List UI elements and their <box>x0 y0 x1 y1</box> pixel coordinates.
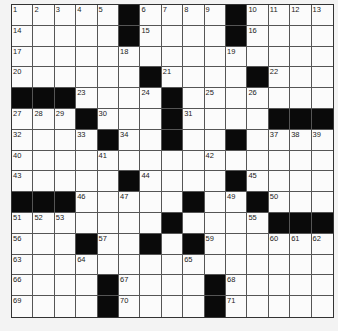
crossword-cell[interactable] <box>290 255 311 276</box>
crossword-cell[interactable] <box>290 275 311 296</box>
crossword-cell[interactable] <box>140 151 161 172</box>
crossword-cell[interactable]: 49 <box>226 192 247 213</box>
crossword-cell[interactable]: 40 <box>12 151 33 172</box>
crossword-cell[interactable]: 66 <box>12 275 33 296</box>
crossword-cell[interactable] <box>269 47 290 68</box>
crossword-cell[interactable] <box>312 296 333 317</box>
crossword-cell[interactable] <box>183 67 204 88</box>
crossword-cell[interactable]: 14 <box>12 26 33 47</box>
crossword-cell[interactable]: 6 <box>140 5 161 26</box>
crossword-cell[interactable]: 61 <box>290 234 311 255</box>
crossword-cell[interactable] <box>140 47 161 68</box>
crossword-cell[interactable] <box>162 26 183 47</box>
crossword-cell[interactable] <box>205 26 226 47</box>
crossword-cell[interactable] <box>76 47 97 68</box>
crossword-cell[interactable] <box>98 192 119 213</box>
crossword-cell[interactable] <box>183 130 204 151</box>
crossword-cell[interactable] <box>76 171 97 192</box>
crossword-cell[interactable] <box>162 234 183 255</box>
crossword-cell[interactable]: 22 <box>269 67 290 88</box>
crossword-cell[interactable] <box>290 171 311 192</box>
crossword-cell[interactable]: 23 <box>76 88 97 109</box>
crossword-cell[interactable] <box>55 130 76 151</box>
crossword-cell[interactable]: 71 <box>226 296 247 317</box>
crossword-cell[interactable] <box>76 151 97 172</box>
crossword-cell[interactable] <box>312 47 333 68</box>
crossword-cell[interactable] <box>140 213 161 234</box>
crossword-cell[interactable]: 44 <box>140 171 161 192</box>
crossword-cell[interactable] <box>269 151 290 172</box>
crossword-cell[interactable] <box>98 88 119 109</box>
crossword-cell[interactable]: 46 <box>76 192 97 213</box>
crossword-cell[interactable] <box>119 234 140 255</box>
crossword-cell[interactable] <box>226 109 247 130</box>
crossword-cell[interactable] <box>269 296 290 317</box>
crossword-cell[interactable] <box>119 67 140 88</box>
crossword-cell[interactable] <box>290 88 311 109</box>
crossword-cell[interactable] <box>183 213 204 234</box>
crossword-cell[interactable]: 57 <box>98 234 119 255</box>
crossword-cell[interactable]: 5 <box>98 5 119 26</box>
crossword-cell[interactable] <box>55 151 76 172</box>
crossword-cell[interactable] <box>55 255 76 276</box>
crossword-cell[interactable] <box>33 275 54 296</box>
crossword-cell[interactable] <box>205 67 226 88</box>
crossword-cell[interactable] <box>76 67 97 88</box>
crossword-cell[interactable]: 7 <box>162 5 183 26</box>
crossword-cell[interactable] <box>55 26 76 47</box>
crossword-cell[interactable]: 25 <box>205 88 226 109</box>
crossword-cell[interactable] <box>226 234 247 255</box>
crossword-cell[interactable] <box>98 67 119 88</box>
crossword-cell[interactable]: 67 <box>119 275 140 296</box>
crossword-cell[interactable] <box>76 296 97 317</box>
crossword-cell[interactable] <box>98 26 119 47</box>
crossword-cell[interactable] <box>226 255 247 276</box>
crossword-cell[interactable]: 17 <box>12 47 33 68</box>
crossword-cell[interactable] <box>269 26 290 47</box>
crossword-cell[interactable]: 1 <box>12 5 33 26</box>
crossword-cell[interactable]: 47 <box>119 192 140 213</box>
crossword-cell[interactable]: 11 <box>269 5 290 26</box>
crossword-cell[interactable] <box>76 275 97 296</box>
crossword-cell[interactable]: 42 <box>205 151 226 172</box>
crossword-cell[interactable] <box>140 275 161 296</box>
crossword-cell[interactable]: 60 <box>269 234 290 255</box>
crossword-cell[interactable]: 38 <box>290 130 311 151</box>
crossword-cell[interactable] <box>162 192 183 213</box>
crossword-cell[interactable]: 59 <box>205 234 226 255</box>
crossword-cell[interactable] <box>312 275 333 296</box>
crossword-cell[interactable] <box>269 88 290 109</box>
crossword-cell[interactable] <box>205 255 226 276</box>
crossword-cell[interactable] <box>55 234 76 255</box>
crossword-cell[interactable]: 70 <box>119 296 140 317</box>
crossword-cell[interactable]: 18 <box>119 47 140 68</box>
crossword-cell[interactable] <box>183 26 204 47</box>
crossword-cell[interactable] <box>33 130 54 151</box>
crossword-cell[interactable]: 65 <box>183 255 204 276</box>
crossword-cell[interactable]: 43 <box>12 171 33 192</box>
crossword-cell[interactable]: 16 <box>247 26 268 47</box>
crossword-cell[interactable]: 10 <box>247 5 268 26</box>
crossword-cell[interactable] <box>119 213 140 234</box>
crossword-cell[interactable] <box>312 26 333 47</box>
crossword-cell[interactable] <box>247 296 268 317</box>
crossword-cell[interactable] <box>183 296 204 317</box>
crossword-cell[interactable]: 26 <box>247 88 268 109</box>
crossword-cell[interactable]: 30 <box>98 109 119 130</box>
crossword-cell[interactable] <box>183 275 204 296</box>
crossword-cell[interactable]: 24 <box>140 88 161 109</box>
crossword-cell[interactable]: 39 <box>312 130 333 151</box>
crossword-cell[interactable] <box>312 151 333 172</box>
crossword-cell[interactable] <box>55 171 76 192</box>
crossword-cell[interactable] <box>33 26 54 47</box>
crossword-cell[interactable]: 19 <box>226 47 247 68</box>
crossword-cell[interactable] <box>205 192 226 213</box>
crossword-cell[interactable] <box>312 67 333 88</box>
crossword-cell[interactable]: 3 <box>55 5 76 26</box>
crossword-cell[interactable]: 21 <box>162 67 183 88</box>
crossword-cell[interactable] <box>269 171 290 192</box>
crossword-cell[interactable] <box>140 192 161 213</box>
crossword-cell[interactable]: 37 <box>269 130 290 151</box>
crossword-cell[interactable]: 52 <box>33 213 54 234</box>
crossword-cell[interactable] <box>226 213 247 234</box>
